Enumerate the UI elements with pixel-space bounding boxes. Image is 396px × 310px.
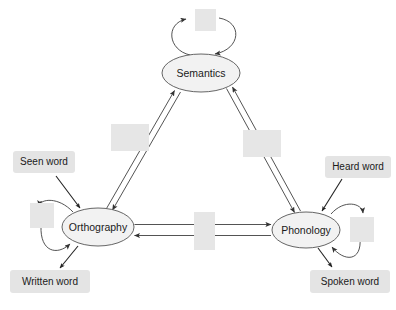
- orthography-self-units-box: [30, 203, 54, 228]
- semantics-label: Semantics: [176, 67, 225, 79]
- node-orthography: Orthography: [62, 208, 134, 246]
- diagram-canvas: Semantics Orthography Phonology Seen wor…: [0, 0, 396, 310]
- io-label-heard-word: Heard word: [325, 156, 391, 178]
- io-label-seen-word: Seen word: [13, 151, 75, 173]
- arrow-seen-word-to-orthography: [56, 176, 80, 208]
- io-label-written-word: Written word: [10, 270, 90, 293]
- orthography-phonology-units-box: [194, 212, 215, 250]
- arrow-phonology-to-spoken-word: [318, 248, 332, 267]
- orthography-label: Orthography: [69, 221, 128, 233]
- arrow-semantics-self-in: [172, 19, 190, 55]
- triangle-model-diagram: Semantics Orthography Phonology Seen wor…: [0, 0, 396, 310]
- semantics-phonology-units-box: [243, 130, 281, 157]
- node-phonology: Phonology: [272, 212, 340, 248]
- spoken-word-text: Spoken word: [321, 276, 379, 287]
- phonology-self-units-box: [350, 217, 374, 242]
- heard-word-text: Heard word: [332, 161, 384, 172]
- semantics-self-units-box: [195, 9, 216, 31]
- orthography-semantics-units-box: [111, 124, 149, 151]
- io-label-spoken-word: Spoken word: [310, 270, 390, 293]
- arrow-heard-word-to-phonology: [322, 179, 342, 211]
- arrow-semantics-self-out: [215, 18, 236, 54]
- arrow-phonology-self-out: [331, 204, 363, 214]
- seen-word-text: Seen word: [20, 156, 68, 167]
- node-semantics: Semantics: [162, 54, 240, 92]
- phonology-label: Phonology: [281, 224, 331, 236]
- written-word-text: Written word: [22, 276, 78, 287]
